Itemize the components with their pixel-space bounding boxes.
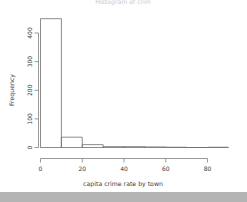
histogram-plot: Histogram of crim 0100200300400 02040608… — [0, 0, 247, 192]
histogram-figure: Histogram of crim 0100200300400 02040608… — [0, 0, 247, 192]
y-tick-label: 400 — [26, 27, 33, 39]
y-tick-label: 300 — [26, 56, 33, 68]
x-tick-label: 60 — [162, 165, 170, 172]
x-tick-label: 40 — [120, 165, 128, 172]
x-axis-title: capita crime rate by town — [83, 180, 163, 188]
y-tick-label: 200 — [26, 84, 33, 96]
histogram-bars — [41, 19, 229, 148]
y-tick-label: 0 — [26, 145, 33, 149]
histogram-bar — [41, 19, 62, 148]
histogram-bar — [82, 145, 103, 148]
x-tick-label: 20 — [78, 165, 86, 172]
x-axis-ticks: 020406080 — [39, 159, 212, 173]
footer-band — [0, 192, 247, 202]
histogram-bar — [61, 137, 82, 147]
x-tick-label: 80 — [204, 165, 212, 172]
y-tick-label: 100 — [26, 113, 33, 125]
x-tick-label: 0 — [39, 165, 43, 172]
y-axis-title: Frequency — [8, 74, 16, 106]
y-axis-ticks: 0100200300400 — [26, 27, 39, 149]
plot-title: Histogram of crim — [95, 0, 151, 6]
